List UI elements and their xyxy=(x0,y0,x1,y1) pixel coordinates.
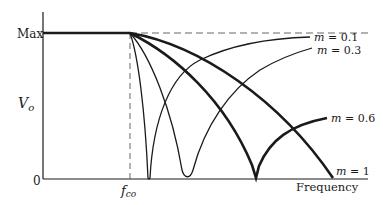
y-axis-label: Vo xyxy=(18,95,34,113)
cutoff-frequency-label: fco xyxy=(120,183,137,199)
curve-m-0.1 xyxy=(130,33,310,179)
curve-m-0.6 xyxy=(130,33,327,178)
curve-label-m-0.3: m = 0.3 xyxy=(317,44,361,57)
filter-response-diagram: Max 0 Vo fco Frequency m = 0.1 m = 0.3 m… xyxy=(0,0,383,205)
x-axis-label: Frequency xyxy=(296,180,359,194)
curve-label-m-0.6: m = 0.6 xyxy=(331,112,375,125)
curve-label-m-0.1: m = 0.1 xyxy=(314,31,358,44)
curve-m-0.3 xyxy=(130,33,312,177)
curve-label-m-1: m = 1 xyxy=(336,165,370,178)
y-tick-zero: 0 xyxy=(33,174,41,188)
y-tick-max: Max xyxy=(17,27,43,41)
curve-m-1 xyxy=(130,33,333,178)
